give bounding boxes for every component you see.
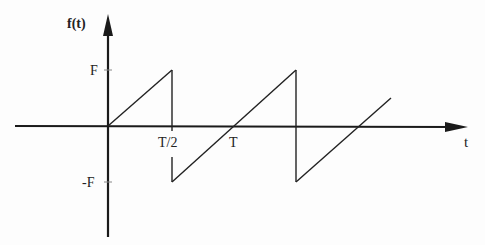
- tick-label-F: F: [90, 63, 98, 78]
- f-axis-arrow-icon: [103, 14, 113, 36]
- tick-label-T-half: T/2: [158, 135, 177, 150]
- diagram-canvas: f(t) t F -F T/2 T: [0, 0, 485, 245]
- y-axis-label: f(t): [67, 16, 86, 32]
- t-axis-arrow-icon: [445, 122, 468, 132]
- tick-label-T: T: [229, 135, 238, 150]
- t-axis: [15, 126, 455, 127]
- x-axis-label: t: [464, 134, 469, 150]
- sawtooth-diagram: f(t) t F -F T/2 T: [0, 0, 485, 245]
- tick-label-minus-F: -F: [82, 175, 95, 190]
